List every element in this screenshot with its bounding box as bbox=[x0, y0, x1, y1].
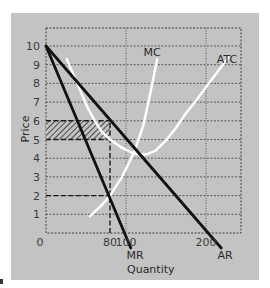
mr-curve bbox=[46, 46, 131, 248]
ar-curve-label: AR bbox=[217, 249, 233, 262]
y-tick-label: 4 bbox=[33, 152, 40, 165]
mc-curve-label: MC bbox=[143, 46, 160, 59]
x-tick-label: 200 bbox=[196, 236, 217, 249]
y-tick-label: 6 bbox=[33, 115, 40, 128]
y-tick-label: 5 bbox=[33, 134, 40, 147]
y-tick-label: 1 bbox=[33, 208, 40, 221]
y-tick-label: 2 bbox=[33, 190, 40, 203]
x-tick-label: 0 bbox=[37, 236, 44, 249]
y-tick-label: 3 bbox=[33, 171, 40, 184]
x-tick-label: 100 bbox=[116, 236, 137, 249]
y-tick-label: 8 bbox=[33, 77, 40, 90]
curves bbox=[46, 46, 228, 248]
monopoly-cost-revenue-chart: 12345678910080100200 Price Quantity MC A… bbox=[0, 0, 270, 288]
atc-curve-label: ATC bbox=[217, 53, 238, 66]
tick-labels: 12345678910080100200 bbox=[26, 40, 217, 249]
y-tick-label: 9 bbox=[33, 59, 40, 72]
y-tick-label: 7 bbox=[33, 96, 40, 109]
y-tick-label: 10 bbox=[26, 40, 40, 53]
mr-curve-label: MR bbox=[126, 249, 143, 262]
y-axis-label: Price bbox=[19, 115, 32, 142]
ar-curve bbox=[46, 46, 221, 248]
x-axis-label: Quantity bbox=[127, 263, 175, 276]
